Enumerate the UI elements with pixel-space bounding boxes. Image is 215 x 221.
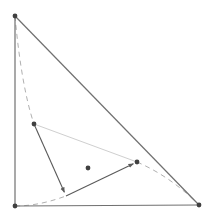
center-point — [86, 166, 91, 171]
edge-bottom-left-bottom-right — [15, 205, 199, 206]
vertex-top-point — [13, 14, 18, 19]
simplex-diagram — [0, 0, 215, 221]
vertex-bottom-left-point — [13, 204, 18, 209]
vertex-bottom-right-point — [197, 203, 202, 208]
arrow-left-point-to-foot-point — [34, 124, 64, 192]
chord-line — [34, 124, 137, 162]
arrow-foot-point-to-right-point — [66, 164, 133, 196]
left-point — [32, 122, 37, 127]
right-point — [135, 160, 140, 165]
triangle-edges — [15, 16, 199, 206]
arrows — [34, 124, 133, 196]
right-branch-curve — [137, 162, 199, 205]
lower-branch-curve — [15, 196, 66, 206]
